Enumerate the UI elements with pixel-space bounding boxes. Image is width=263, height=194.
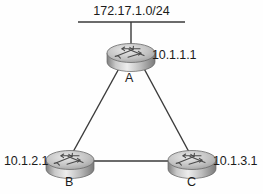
router-icon[interactable] bbox=[107, 44, 155, 72]
router-a-name-label: A bbox=[125, 71, 133, 85]
router-c-ip-label: 10.1.3.1 bbox=[213, 154, 257, 168]
link-router-a-to-router-c bbox=[141, 63, 189, 152]
router-b-name-label: B bbox=[65, 175, 73, 189]
link-router-a-to-router-b bbox=[73, 63, 122, 152]
router-c-name-label: C bbox=[187, 175, 196, 189]
router-a-ip-label: 10.1.1.1 bbox=[152, 48, 196, 62]
router-b-ip-label: 10.1.2.1 bbox=[4, 154, 48, 168]
network-topology-diagram: 172.17.1.0/24 10.1.1.1 10.1.2.1 10.1.3.1… bbox=[0, 0, 263, 194]
lan-network-label: 172.17.1.0/24 bbox=[0, 4, 263, 18]
